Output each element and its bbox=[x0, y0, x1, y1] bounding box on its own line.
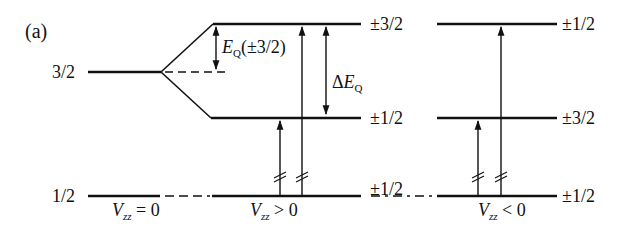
panel-label: (a) bbox=[25, 21, 47, 41]
condition-negative: Vzz < 0 bbox=[478, 201, 526, 222]
delta-eq-annotation: ΔEQ bbox=[332, 73, 363, 94]
neg-middle-label: ±3/2 bbox=[562, 109, 595, 127]
pos-top-label: ±3/2 bbox=[370, 15, 403, 33]
diagram-lines bbox=[0, 0, 631, 234]
pos-bottom-label: ±1/2 bbox=[370, 180, 403, 198]
neg-top-label: ±1/2 bbox=[562, 15, 595, 33]
level-label-3-2: 3/2 bbox=[52, 63, 75, 81]
eq-annotation: EQ(±3/2) bbox=[222, 38, 286, 59]
condition-positive: Vzz > 0 bbox=[250, 201, 298, 222]
condition-zero: Vzz = 0 bbox=[112, 201, 160, 222]
neg-bottom-label: ±1/2 bbox=[562, 187, 595, 205]
energy-level-diagram: (a) 3/2 1/2 EQ(±3/2) ΔEQ ±3/2 ±1/2 ±1/2 … bbox=[0, 0, 631, 234]
pos-middle-label: ±1/2 bbox=[370, 109, 403, 127]
level-label-1-2: 1/2 bbox=[52, 187, 75, 205]
